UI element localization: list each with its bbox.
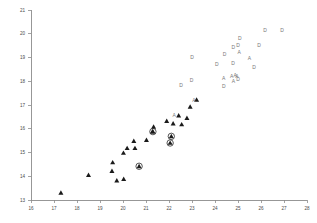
x-tick-label: 22	[166, 206, 172, 211]
plot-canvas: 131415161718192021 161718192021222324252…	[0, 0, 317, 223]
data-point-triangle	[121, 150, 126, 154]
data-point-triangle	[109, 168, 114, 172]
data-point-triangle	[169, 134, 174, 138]
data-point-letter-D: D	[190, 77, 194, 83]
data-point-triangle	[114, 178, 119, 182]
data-point-letter-D: D	[257, 42, 261, 48]
data-point-triangle	[121, 177, 126, 181]
data-point-triangle	[176, 113, 181, 117]
data-point-letter-D: D	[236, 42, 240, 48]
data-point-triangle	[150, 129, 155, 133]
data-point-triangle	[86, 172, 91, 176]
data-points-layer: AAAAAAAAADDDDDDDDDDDDDDD	[58, 27, 284, 195]
y-tick-label: 13	[20, 198, 26, 203]
data-point-triangle	[58, 190, 63, 194]
data-point-letter-D: D	[190, 54, 194, 60]
data-point-triangle	[137, 164, 142, 168]
data-point-triangle	[144, 138, 149, 142]
y-tick-label: 19	[20, 55, 26, 60]
data-point-triangle	[132, 146, 137, 150]
series-triangle	[58, 97, 199, 195]
x-tick-label: 25	[235, 206, 241, 211]
data-point-letter-D: D	[179, 82, 183, 88]
data-point-triangle	[151, 124, 156, 128]
data-point-triangle	[168, 140, 173, 144]
data-point-triangle	[171, 121, 176, 125]
x-tick-label: 27	[281, 206, 287, 211]
data-point-letter-D: D	[222, 83, 226, 89]
x-tick-label: 20	[120, 206, 126, 211]
x-tick-label: 19	[97, 206, 103, 211]
data-point-letter-A: A	[237, 49, 241, 55]
data-point-triangle	[188, 104, 193, 108]
y-tick-label: 14	[20, 174, 26, 179]
x-tick-label: 24	[212, 206, 218, 211]
data-point-triangle	[110, 160, 115, 164]
y-tick-label: 16	[20, 126, 26, 131]
x-axis-tick-labels: 16171819202122232425262728	[28, 206, 310, 211]
y-tick-label: 17	[20, 103, 26, 108]
data-point-letter-D: D	[231, 60, 235, 66]
data-point-triangle	[184, 115, 189, 119]
data-point-letter-D: D	[236, 76, 240, 82]
x-tick-label: 26	[258, 206, 264, 211]
y-tick-label: 21	[20, 8, 26, 13]
data-point-triangle	[179, 122, 184, 126]
x-tick-label: 17	[51, 206, 57, 211]
data-point-triangle	[164, 119, 169, 123]
y-tick-label: 20	[20, 31, 26, 36]
y-tick-label: 18	[20, 79, 26, 84]
data-point-letter-A: A	[222, 75, 226, 81]
data-point-letter-D: D	[232, 44, 236, 50]
data-point-letter-D: D	[223, 51, 227, 57]
y-tick-label: 15	[20, 150, 26, 155]
scatter-plot-figure: 131415161718192021 161718192021222324252…	[0, 0, 317, 223]
data-point-letter-D: D	[215, 61, 219, 67]
data-point-triangle	[125, 146, 130, 150]
data-point-letter-D: D	[252, 64, 256, 70]
data-point-letter-A: A	[248, 55, 252, 61]
x-tick-label: 28	[304, 206, 310, 211]
data-point-letter-D: D	[263, 27, 267, 33]
data-point-letter-D: D	[238, 35, 242, 41]
data-point-letter-D: D	[280, 27, 284, 33]
data-point-letter-A: A	[172, 112, 176, 118]
data-point-triangle	[131, 139, 136, 143]
series-triangle-circled	[136, 128, 175, 169]
x-axis: 16171819202122232425262728	[28, 200, 310, 211]
y-axis: 131415161718192021	[20, 8, 31, 203]
x-tick-label: 21	[143, 206, 149, 211]
x-tick-label: 16	[28, 206, 34, 211]
x-tick-label: 23	[189, 206, 195, 211]
x-tick-label: 18	[74, 206, 80, 211]
series-A: AAAAAAAAA	[172, 49, 251, 118]
y-axis-tick-labels: 131415161718192021	[20, 8, 26, 203]
